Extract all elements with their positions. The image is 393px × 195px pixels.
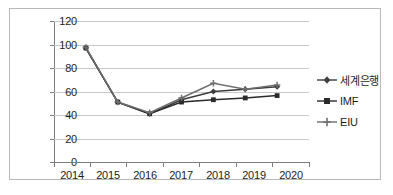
chart-frame: 120 100 80 60 40 20 0 2014 2015 2016 201… [9, 8, 381, 180]
x-axis-line [54, 162, 309, 163]
x-tick-mark [163, 162, 164, 167]
legend-item-eiu[interactable]: EIU [316, 111, 390, 132]
x-tick-mark [126, 162, 127, 167]
x-axis-label-2020: 2020 [269, 169, 313, 181]
data-point [242, 86, 248, 92]
x-tick-mark [272, 162, 273, 167]
legend-marker-cross-icon [316, 116, 338, 128]
legend-marker-diamond-icon [316, 74, 338, 86]
data-point [275, 93, 280, 98]
x-tick-mark [54, 162, 55, 167]
x-tick-mark [90, 162, 91, 167]
legend-label-imf: IMF [340, 95, 358, 107]
legend-label-worldbank: 세계은행 [340, 72, 379, 88]
legend-item-imf[interactable]: IMF [316, 90, 390, 111]
x-tick-mark [199, 162, 200, 167]
data-point [243, 96, 248, 101]
series-layer [54, 21, 309, 162]
data-point [210, 80, 216, 86]
x-tick-mark [236, 162, 237, 167]
x-tick-mark [309, 162, 310, 167]
chart-legend: 세계은행 IMF EIU [316, 69, 390, 132]
legend-marker-square-icon [316, 95, 338, 107]
data-point [211, 97, 216, 102]
legend-item-worldbank[interactable]: 세계은행 [316, 69, 390, 90]
legend-label-eiu: EIU [340, 116, 358, 128]
data-point [210, 89, 216, 95]
